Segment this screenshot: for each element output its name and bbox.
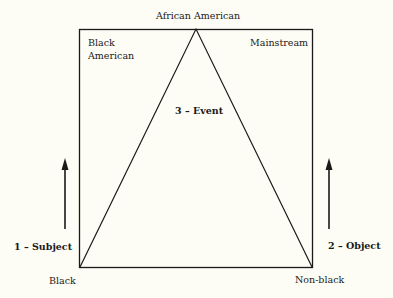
bottom-right-label: Non-black [295, 273, 344, 286]
bottom-left-label: Black [49, 274, 76, 287]
arrow-up-right-icon [326, 158, 333, 229]
apex-label: African American [156, 9, 240, 22]
right-axis-label: 2 – Object [328, 239, 381, 252]
center-label: 3 – Event [175, 104, 223, 117]
left-axis-label: 1 – Subject [14, 240, 72, 253]
triangle [80, 29, 312, 267]
box-top-left-label-line1: Black [88, 36, 115, 49]
outer-box [80, 30, 313, 268]
triangle-diagram [0, 0, 393, 298]
box-top-right-label: Mainstream [250, 36, 308, 49]
arrow-up-left-icon [62, 158, 69, 229]
box-top-left-label-line2: American [88, 49, 134, 62]
